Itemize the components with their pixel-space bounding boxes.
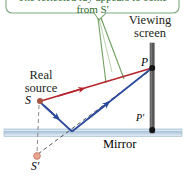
reflected-ray-arrowhead	[88, 103, 108, 119]
real-source-label-line1: Real	[12, 69, 70, 82]
mirror-label: Mirror	[103, 137, 136, 152]
incident-ray-arrowhead	[44, 106, 58, 119]
real-source-label-line2: source	[12, 82, 70, 95]
viewing-screen-label-line1: Viewing	[121, 14, 179, 27]
dashed-vertical-s-to-sprime	[37, 105, 39, 153]
point-P-dot	[149, 65, 155, 71]
source-point-label: S	[25, 93, 31, 108]
real-source-label: Real source	[12, 69, 70, 95]
screen-base-point-label: P′	[136, 112, 144, 123]
viewing-screen-label: Viewing screen	[121, 14, 179, 40]
viewing-screen-highlight	[151, 43, 152, 133]
point-Pprime-dot	[149, 127, 155, 133]
physics-diagram: The reflected ray appears to come from S…	[0, 0, 185, 177]
virtual-source-point-label: S′	[31, 160, 39, 172]
virtual-source-dot	[34, 153, 41, 160]
screen-point-label: P	[141, 56, 148, 68]
source-dot	[37, 98, 43, 104]
viewing-screen-label-line2: screen	[121, 27, 179, 40]
